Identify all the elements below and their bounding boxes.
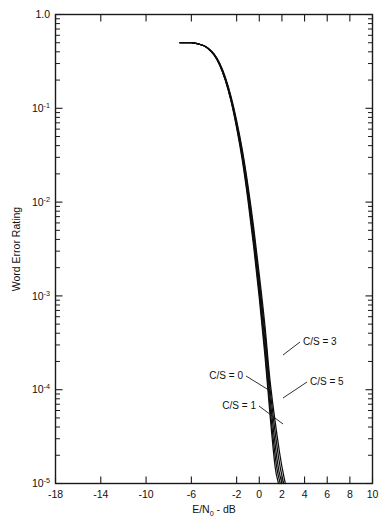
annotation-leader-line <box>283 342 300 355</box>
y-tick-label: 10-2 <box>32 195 50 208</box>
annotation-label: C/S = 0 <box>209 370 243 381</box>
x-tick-label: -10 <box>138 488 153 500</box>
x-tick-label: 4 <box>302 488 308 500</box>
x-tick-label: 0 <box>256 488 262 500</box>
annotation-label: C/S = 1 <box>222 400 256 411</box>
curve-annotations: C/S = 3C/S = 0C/S = 5C/S = 1 <box>209 336 344 424</box>
y-axis-title: Word Error Rating <box>10 207 22 292</box>
y-axis-ticks <box>56 15 373 484</box>
annotation-label: C/S = 5 <box>310 376 344 387</box>
curve-c-s-1 <box>180 43 280 484</box>
x-axis-title: E/N0 - dB <box>192 503 236 518</box>
y-tick-label: 10-4 <box>32 382 50 395</box>
x-tick-label: -14 <box>93 488 108 500</box>
word-error-rating-chart: 1.010-110-210-310-410-5 -18-14-10-6-2024… <box>0 0 390 526</box>
x-axis-tick-labels: -18-14-10-6-20246810 <box>48 488 379 500</box>
annotation-label: C/S = 3 <box>303 336 337 347</box>
x-tick-label: 6 <box>324 488 330 500</box>
x-tick-label: 10 <box>367 488 379 500</box>
x-tick-label: 8 <box>347 488 353 500</box>
x-tick-label: -2 <box>232 488 241 500</box>
x-tick-label: -6 <box>187 488 196 500</box>
curve-c-s-0 <box>180 43 278 484</box>
curve-c-s-5 <box>180 43 284 484</box>
x-axis-ticks <box>56 15 373 484</box>
plot-frame <box>56 15 373 484</box>
data-curves <box>180 43 285 484</box>
annotation-leader-line <box>283 382 307 398</box>
x-tick-label: -18 <box>48 488 63 500</box>
curve-c-s-3 <box>180 43 282 484</box>
y-tick-label: 1.0 <box>35 8 50 20</box>
y-axis-tick-labels: 1.010-110-210-310-410-5 <box>32 8 50 489</box>
y-tick-label: 10-3 <box>32 289 50 302</box>
x-tick-label: 2 <box>279 488 285 500</box>
axes-rectangle <box>56 15 373 484</box>
y-tick-label: 10-1 <box>32 101 50 114</box>
chart-figure: 1.010-110-210-310-410-5 -18-14-10-6-2024… <box>0 0 390 526</box>
